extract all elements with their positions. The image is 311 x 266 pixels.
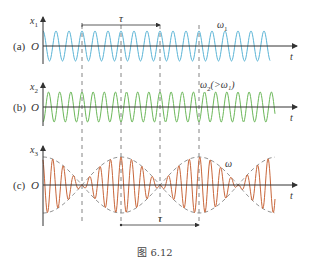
t-label-b: t [290, 112, 293, 123]
tau-top-indicator: τ [82, 12, 160, 27]
figure-caption: 图 6.12 [137, 247, 172, 258]
t-label-c: t [290, 190, 293, 201]
omega1-label: ω1 [217, 19, 228, 33]
t-label-a: t [290, 51, 293, 62]
x3-axis-label: x3 [29, 144, 38, 158]
x1-axis-label: x1 [29, 15, 38, 29]
x2-axis-label: x2 [29, 81, 38, 95]
panel-c: x3 (c) O t ω [13, 144, 297, 226]
origin-a: O [31, 40, 39, 52]
panel-a-label: (a) [13, 40, 26, 53]
panel-b-label: (b) [13, 101, 26, 114]
tau-bottom-label: τ [158, 212, 163, 224]
panel-b: x2 (b) O t ω2(>ω₁) [13, 79, 297, 126]
tau-bottom-indicator: τ [120, 212, 199, 226]
panel-a: x1 (a) O t ω1 [13, 15, 297, 64]
origin-b: O [31, 101, 39, 113]
omega-label: ω [225, 158, 232, 169]
beat-frequency-diagram: τ x1 (a) O t ω1 x2 (b) O t ω2(>ω₁) x3 (c… [0, 0, 311, 266]
omega2-label: ω2(>ω₁) [200, 79, 235, 93]
tau-top-label: τ [119, 12, 124, 24]
panel-c-label: (c) [13, 179, 26, 192]
origin-c: O [31, 179, 39, 191]
